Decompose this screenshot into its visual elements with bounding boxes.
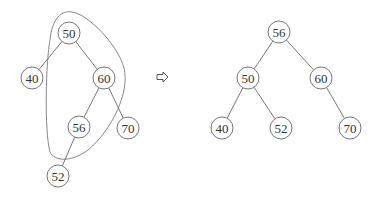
- before-node-40: 40: [21, 67, 43, 89]
- after-node-56: 56: [268, 21, 290, 43]
- before-edge-50-60: [76, 42, 97, 70]
- tree-rotation-diagram: 504060567052 565060405270: [0, 0, 386, 200]
- before-node-70: 70: [117, 117, 139, 139]
- node-label: 70: [122, 121, 135, 136]
- before-node-56: 56: [68, 116, 90, 138]
- before-node-52: 52: [47, 165, 69, 187]
- node-label: 52: [52, 169, 65, 184]
- before-node-50: 50: [58, 22, 80, 44]
- before-edge-60-56: [84, 88, 99, 117]
- node-label: 50: [63, 26, 76, 41]
- node-label: 56: [273, 25, 287, 40]
- node-label: 60: [98, 71, 111, 86]
- after-node-60: 60: [310, 67, 332, 89]
- after-edge-60-70: [327, 88, 345, 119]
- node-label: 40: [216, 121, 229, 136]
- node-label: 50: [242, 71, 255, 86]
- after-edge-50-40: [227, 88, 243, 118]
- after-tree-nodes: 565060405270: [211, 21, 361, 139]
- after-node-50: 50: [237, 67, 259, 89]
- after-node-52: 52: [270, 117, 292, 139]
- before-tree-edges: [39, 41, 123, 165]
- after-node-40: 40: [211, 117, 233, 139]
- node-label: 60: [315, 71, 328, 86]
- after-node-70: 70: [339, 117, 361, 139]
- before-edge-56-52: [62, 137, 74, 166]
- before-edge-50-40: [39, 41, 62, 69]
- after-edge-56-60: [286, 40, 313, 70]
- diagram-svg: 504060567052 565060405270: [0, 0, 386, 200]
- node-label: 70: [344, 121, 357, 136]
- transform-arrow-icon: [157, 72, 168, 82]
- before-node-60: 60: [93, 67, 115, 89]
- node-label: 52: [275, 121, 288, 136]
- after-edge-56-50: [254, 41, 273, 69]
- after-edge-50-52: [254, 87, 275, 119]
- node-label: 40: [26, 71, 39, 86]
- node-label: 56: [73, 120, 87, 135]
